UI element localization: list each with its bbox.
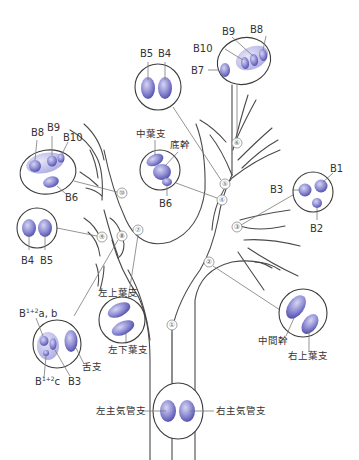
bronchial-tree-diagram: ① 左主気管支 右主気管支 ② 中間幹 右上葉支 ③ B1 B3 B2 — [0, 0, 359, 460]
label-B6-right: B6 — [159, 198, 172, 209]
label-B10-left: B10 — [63, 132, 83, 143]
section-7-left-lobes: ⑦ 左上葉支 左下葉支 — [98, 225, 148, 355]
label-B1+2-c: B1+2c — [35, 375, 60, 387]
label-B4-left: B4 — [21, 255, 34, 266]
label-left-lower-lobe-bronchus: 左下葉支 — [108, 344, 148, 355]
label-B4-top: B4 — [158, 48, 171, 59]
label-intermediate-trunk: 中間幹 — [258, 335, 288, 346]
svg-text:①: ① — [169, 321, 175, 329]
section-2-right-upper: ② 中間幹 右上葉支 — [204, 257, 328, 361]
svg-text:⑤: ⑤ — [222, 180, 228, 188]
label-B2: B2 — [310, 223, 323, 234]
label-B7: B7 — [191, 65, 204, 76]
label-right-main-bronchus: 右主気管支 — [216, 405, 266, 416]
label-B8-left: B8 — [31, 127, 44, 138]
label-left-upper-lobe-bronchus: 左上葉支 — [98, 287, 138, 298]
svg-text:②: ② — [206, 258, 212, 266]
svg-text:⑨: ⑨ — [99, 233, 105, 241]
section-10-left-lower-segments: ⑩ B8 B9 B10 B6 — [17, 122, 127, 203]
label-B1: B1 — [330, 163, 343, 174]
svg-text:④: ④ — [219, 196, 225, 204]
label-right-upper-lobe-bronchus: 右上葉支 — [288, 350, 328, 361]
label-B5-left: B5 — [40, 255, 53, 266]
label-B5-top: B5 — [140, 48, 153, 59]
label-B3-left: B3 — [68, 376, 81, 387]
label-middle-lobe-bronchus: 中葉支 — [136, 128, 166, 139]
label-basal-trunk: 底幹 — [170, 139, 190, 150]
label-B9-right: B9 — [222, 26, 235, 37]
label-B8-right: B8 — [250, 24, 263, 35]
label-B6-left: B6 — [65, 192, 78, 203]
section-6-right-basal-segments: ⑥ B9 B8 B10 B7 — [191, 24, 277, 148]
label-B1+2-ab: B1+2a, b — [19, 307, 57, 319]
svg-text:⑦: ⑦ — [135, 226, 141, 234]
label-B10-right: B10 — [193, 43, 213, 54]
svg-text:⑧: ⑧ — [119, 232, 125, 240]
label-left-main-bronchus: 左主気管支 — [96, 405, 146, 416]
label-B9-left: B9 — [47, 122, 60, 133]
label-B3: B3 — [270, 184, 283, 195]
svg-text:⑩: ⑩ — [119, 189, 125, 197]
label-lingular-bronchus: 舌支 — [82, 361, 102, 372]
svg-text:③: ③ — [234, 223, 240, 231]
svg-text:⑥: ⑥ — [234, 139, 240, 147]
section-3-right-upper-segments: ③ B1 B3 B2 — [232, 163, 343, 234]
